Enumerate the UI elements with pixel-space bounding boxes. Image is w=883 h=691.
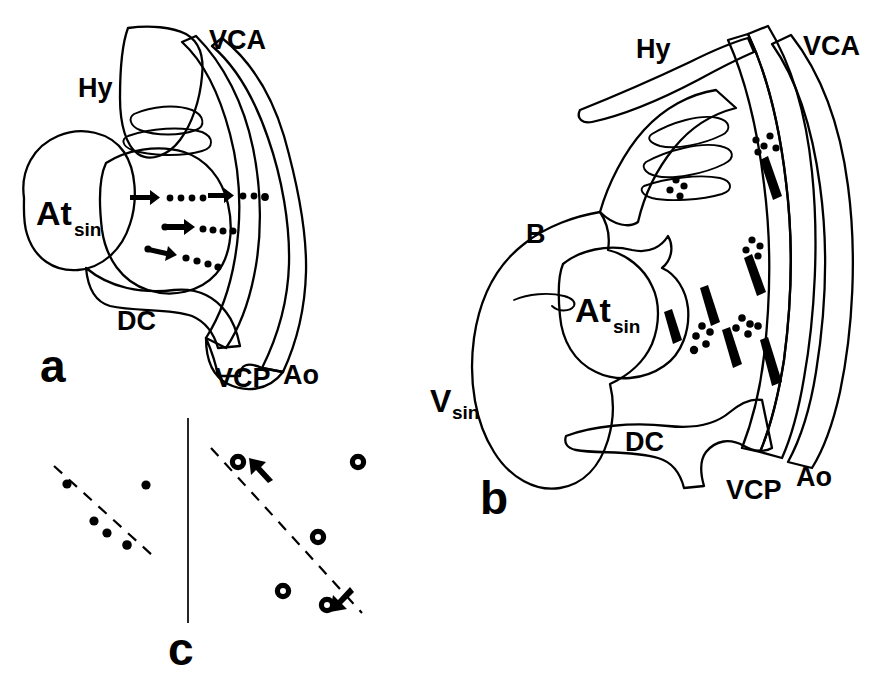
panel-b-drawing [472,26,853,489]
panel-b-label-v: V [430,383,452,419]
panel-b-label-v-sub: sin [452,402,479,423]
panel-c-right-point [312,531,323,542]
panel-a-inner-vessel-band [182,36,260,348]
panel-a-label-hy: Hy [78,73,113,103]
panel-b-letter: b [480,472,508,524]
panel-a-hy-hatched-region [120,27,202,158]
panel-b-label-hy: Hy [636,34,671,64]
panel-b-label-vcp: VCP [726,475,782,505]
panel-b-inner-hook [514,294,575,311]
panel-b-outer-vessel-band [772,35,853,468]
panel-c-right-point [352,456,363,467]
panel-c-left-points [62,479,150,549]
panel-c-left-point [141,480,150,489]
panel-c-left-point [102,528,111,537]
panel-c-drawing [54,418,364,623]
panel-a-letter: a [40,340,66,392]
panel-b-upper-stippled-pillar [600,90,736,225]
panel-a-arrow-trail-2 [161,219,236,235]
figure-root: Hy VCA At sin DC VCP Ao a [0,0,883,691]
panel-b-label-dc: DC [625,427,664,457]
panel-b-label-b-cavity: B [526,219,546,249]
panel-a-label-dc: DC [117,306,156,336]
panel-a-label-ao: Ao [283,360,319,390]
panel-a-arrow-trail-1 [130,190,206,205]
panel-a-label-vca: VCA [209,25,266,55]
panel-a-label-at-sub: sin [74,219,101,240]
panel-a-label-vcp: VCP [215,363,271,393]
figure-canvas: Hy VCA At sin DC VCP Ao a [0,0,883,691]
panel-b-label-vca: VCA [803,31,860,61]
panel-a-label-at: At [36,194,72,232]
panel-a-dc-band [86,268,240,348]
panel-c-right-point [232,456,243,467]
panel-c-left-point [89,516,98,525]
panel-b-label-ao: Ao [796,462,832,492]
panel-c-left-point [62,479,71,488]
panel-c-letter: c [168,623,194,675]
panel-c-right-point [277,585,288,596]
panel-c-right-points [232,456,363,610]
panel-b-label-at: At [575,291,611,329]
panel-a-central-chamber [100,148,231,293]
panel-b-label-at-sub: sin [613,316,640,337]
panel-a-arrow-trail-3 [144,245,221,270]
panel-c-left-point [122,540,132,550]
panel-c-left-dashed-line [54,466,152,555]
panel-c-arrow-upper-left [249,458,273,483]
